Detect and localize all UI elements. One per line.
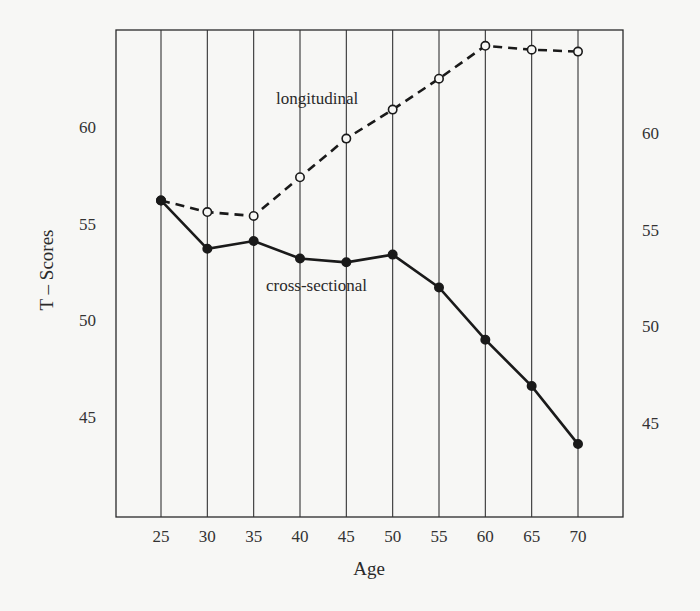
x-tick-label: 35 [245, 527, 262, 546]
data-point [481, 335, 489, 343]
label-longitudinal: longitudinal [276, 89, 358, 108]
y-tick-labels-left: 60555045 [79, 118, 96, 427]
data-point [203, 245, 211, 253]
x-tick-label: 30 [199, 527, 216, 546]
x-tick-label: 45 [338, 527, 355, 546]
data-point [574, 440, 582, 448]
y-tick-label-left: 50 [79, 311, 96, 330]
y-tick-labels-right: 60555045 [642, 124, 659, 433]
data-point [527, 382, 535, 390]
data-point [435, 74, 443, 82]
y-tick-label-left: 55 [79, 215, 96, 234]
y-tick-label-left: 60 [79, 118, 96, 137]
series-line [161, 200, 578, 444]
label-cross-sectional: cross-sectional [266, 276, 367, 295]
series-line [161, 46, 578, 216]
y-axis-title: T – Scores [36, 230, 57, 311]
series-cross-sectional [157, 196, 582, 448]
plot-frame [116, 30, 623, 517]
data-point [574, 47, 582, 55]
y-tick-label-right: 45 [642, 414, 659, 433]
data-point [435, 283, 443, 291]
x-axis-title: Age [353, 558, 385, 579]
data-point [342, 134, 350, 142]
series-longitudinal [157, 42, 582, 221]
x-tick-label: 65 [523, 527, 540, 546]
data-point [527, 45, 535, 53]
data-point [249, 212, 257, 220]
data-point [342, 258, 350, 266]
y-tick-label-right: 55 [642, 221, 659, 240]
data-point [296, 173, 304, 181]
line-chart: 25303540455055606570 60555045 60555045 l… [0, 0, 700, 611]
x-tick-labels: 25303540455055606570 [153, 527, 587, 546]
data-point [296, 254, 304, 262]
data-point [388, 105, 396, 113]
y-tick-label-left: 45 [79, 408, 96, 427]
data-point [481, 42, 489, 50]
x-tick-label: 25 [153, 527, 170, 546]
data-point [388, 250, 396, 258]
data-point [249, 237, 257, 245]
vertical-gridlines [161, 30, 578, 517]
x-tick-label: 70 [570, 527, 587, 546]
y-tick-label-right: 60 [642, 124, 659, 143]
data-point [157, 196, 165, 204]
x-tick-label: 60 [477, 527, 494, 546]
y-tick-label-right: 50 [642, 317, 659, 336]
x-tick-label: 50 [384, 527, 401, 546]
x-tick-label: 40 [292, 527, 309, 546]
data-point [203, 208, 211, 216]
x-tick-label: 55 [431, 527, 448, 546]
